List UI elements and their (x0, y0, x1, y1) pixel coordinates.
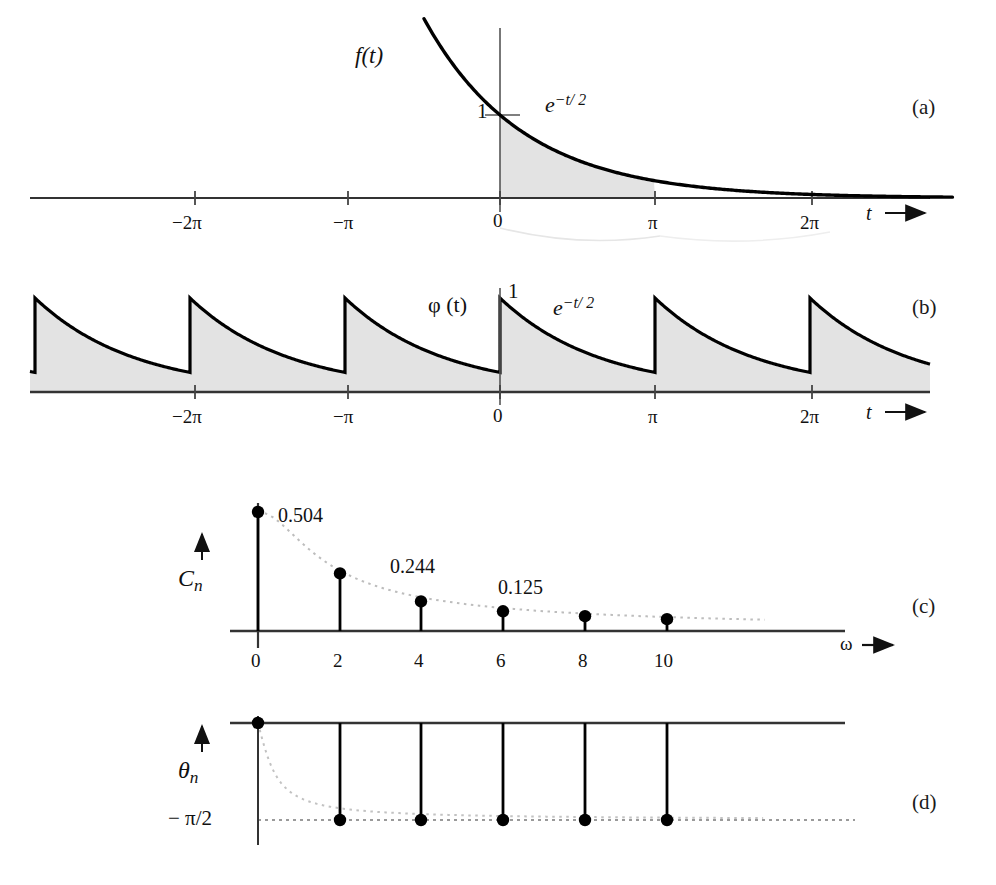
panel-b-curve-label: e−t/ 2 (553, 295, 594, 319)
panel-a-curve-label-exponent: −t/ 2 (555, 91, 586, 108)
panel-a-tick-label-4: 2π (800, 213, 819, 232)
panel-d-y-axis-label: θn (178, 758, 198, 786)
panel-d-stem-marker (334, 814, 346, 826)
panel-b-tick-label-4: 2π (800, 407, 819, 426)
panel-a-axis-label: t (866, 203, 872, 223)
panel-b-curve-label-base: e (553, 295, 563, 320)
panel-d-stems (252, 717, 673, 826)
panel-a-tick-label-3: π (648, 213, 658, 232)
panel-a-function-label: f(t) (355, 44, 383, 67)
panel-c-y-axis-label-base: C (178, 565, 194, 591)
panel-c-stem-marker (661, 613, 673, 625)
panel-a-y-tick-label: 1 (477, 101, 488, 122)
panel-c-stem-marker (497, 605, 509, 617)
panel-c-y-axis-label-sub: n (194, 576, 203, 595)
panel-c-envelope-curve (258, 512, 765, 620)
panel-a-guide-arc (500, 228, 660, 241)
panel-b-periodic-curve (30, 298, 930, 372)
panel-c-tick-label-3: 6 (496, 651, 506, 670)
panel-a-tick-label-0: −2π (172, 213, 202, 232)
panel-c-tick-label-0: 0 (251, 651, 261, 670)
panel-a-tick-label-1: −π (333, 213, 353, 232)
panel-d-stem-marker (415, 814, 427, 826)
panel-b-peak-label: 1 (508, 281, 519, 302)
panel-c-omega-label: ω (840, 634, 853, 653)
panel-d-y-axis-label-sub: n (190, 768, 199, 787)
panel-letter-a: (a) (912, 95, 935, 120)
figure-root: f(t) 1 e−t/ 2 −2π −π 0 π 2π t (a) φ (t) … (0, 0, 996, 885)
panel-c-tick-label-1: 2 (333, 651, 343, 670)
panel-c-stem-marker (252, 506, 264, 518)
panel-c-tick-label-2: 4 (414, 651, 424, 670)
panel-c-stem-marker (334, 567, 346, 579)
panel-letter-d: (d) (912, 790, 937, 815)
panel-d-asymptote-label: − π/2 (168, 808, 212, 829)
panel-d-y-axis-label-base: θ (178, 757, 190, 783)
panel-d-stem-marker (497, 814, 509, 826)
panel-c-value-label-2: 0.125 (498, 577, 543, 597)
panel-c-stem-marker (579, 610, 591, 622)
panel-b-plot (30, 288, 930, 412)
panel-c-value-label-1: 0.244 (390, 556, 435, 576)
panel-a-shaded-region (500, 115, 655, 198)
panel-d-envelope-curve (258, 723, 763, 818)
panel-b-shaded-waveform (30, 298, 930, 392)
panel-a-tick-label-2: 0 (493, 211, 503, 230)
panel-b-tick-label-0: −2π (172, 407, 202, 426)
panel-b-axis-label: t (866, 402, 872, 422)
panel-d-stem-marker (661, 814, 673, 826)
panel-c-tick-label-5: 10 (654, 651, 673, 670)
panel-d-plot (202, 716, 855, 845)
panel-a-curve-label-base: e (545, 92, 555, 117)
panel-a-curve-label: e−t/ 2 (545, 92, 586, 116)
panel-letter-b: (b) (912, 295, 937, 320)
panel-b-function-label: φ (t) (428, 294, 467, 316)
panel-b-tick-label-2: 0 (493, 406, 503, 425)
panel-b-tick-label-3: π (648, 407, 658, 426)
panel-letter-c: (c) (912, 594, 935, 619)
panel-d-stem-marker (579, 814, 591, 826)
panel-b-curve-label-exponent: −t/ 2 (563, 294, 594, 311)
panel-b-tick-label-1: −π (333, 407, 353, 426)
panel-a-guide-arc-2 (660, 232, 830, 241)
panel-c-stem-marker (415, 595, 427, 607)
panel-d-stem-marker (252, 717, 264, 729)
panel-a-plot (30, 19, 952, 241)
panel-c-tick-label-4: 8 (578, 651, 588, 670)
panel-c-value-label-0: 0.504 (278, 505, 323, 525)
figure-canvas (0, 0, 996, 885)
panel-c-y-axis-label: Cn (178, 566, 203, 594)
